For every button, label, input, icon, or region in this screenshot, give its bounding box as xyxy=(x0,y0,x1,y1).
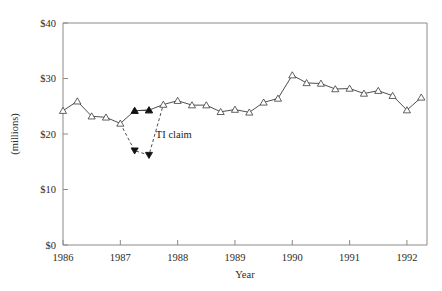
data-point-marker-open xyxy=(389,92,396,98)
y-axis-tick-label: $10 xyxy=(40,184,56,195)
data-point-marker-open xyxy=(174,97,181,103)
x-axis-tick-label: 1988 xyxy=(167,252,188,263)
data-point-marker-down xyxy=(145,152,152,158)
data-point-marker-open xyxy=(289,72,296,78)
chart-container: $0$10$20$30$4019861987198819891990199119… xyxy=(0,0,442,291)
data-point-marker-open xyxy=(74,98,81,104)
y-axis-tick-label: $20 xyxy=(40,129,56,140)
x-axis-tick-label: 1990 xyxy=(282,252,303,263)
plot-frame xyxy=(63,23,427,245)
x-axis-tick-label: 1989 xyxy=(224,252,245,263)
data-point-marker-open xyxy=(418,94,425,100)
y-axis-tick-label: $30 xyxy=(40,73,56,84)
data-point-marker-open xyxy=(59,107,66,113)
x-axis-tick-label: 1986 xyxy=(53,252,74,263)
data-point-marker-open xyxy=(375,87,382,93)
x-axis-title: Year xyxy=(235,269,255,280)
y-axis-tick-label: $0 xyxy=(46,240,57,251)
series-line-actual xyxy=(63,75,421,123)
data-point-marker-open xyxy=(231,106,238,112)
annotation-ti-claim: TI claim xyxy=(156,129,192,140)
x-axis-tick-label: 1992 xyxy=(396,252,417,263)
x-axis-tick-label: 1987 xyxy=(110,252,131,263)
y-axis-title: (millions) xyxy=(9,113,21,155)
x-axis-tick-label: 1991 xyxy=(339,252,360,263)
y-axis-tick-label: $40 xyxy=(40,18,56,29)
line-chart: $0$10$20$30$4019861987198819891990199119… xyxy=(0,0,442,291)
data-point-marker-open xyxy=(274,95,281,101)
